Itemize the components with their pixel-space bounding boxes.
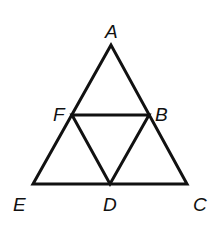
inner-triangle-FBD [72, 115, 149, 184]
label-B: B [155, 104, 168, 125]
label-D: D [103, 194, 117, 215]
triangle-diagram: A F B E D C [0, 0, 214, 226]
label-E: E [13, 194, 26, 215]
label-C: C [193, 194, 207, 215]
label-F: F [53, 104, 66, 125]
label-A: A [104, 21, 118, 42]
